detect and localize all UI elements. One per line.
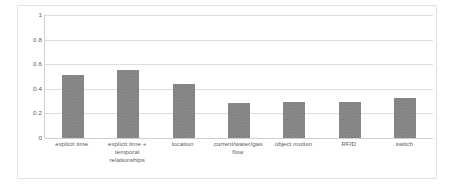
x-axis-category-label: object motion [266, 140, 321, 148]
y-axis-tick-label: 0.2 [33, 110, 42, 116]
x-axis-category-label: RFID [321, 140, 376, 148]
y-axis: 00.20.40.60.81 [22, 10, 42, 138]
bar-slot [378, 15, 433, 138]
x-axis-category-label: explicit time [44, 140, 99, 148]
y-axis-tick-label: 0.4 [33, 86, 42, 92]
x-axis-category-label: current/water/gas flow [210, 140, 265, 156]
bar[interactable] [62, 75, 84, 138]
plot-area [44, 15, 433, 138]
bar[interactable] [228, 103, 250, 138]
bar-slot [100, 15, 155, 138]
bar[interactable] [173, 84, 195, 138]
bar[interactable] [339, 102, 361, 138]
x-axis-category-label: explicit time + temporal relationships [99, 140, 154, 165]
y-axis-tick-label: 1 [38, 12, 42, 18]
bar-slot [267, 15, 322, 138]
y-axis-tick-label: 0 [38, 135, 42, 141]
axis-baseline [45, 138, 433, 139]
bar-slot [45, 15, 100, 138]
bar[interactable] [117, 70, 139, 138]
bar-slot [156, 15, 211, 138]
bar-series [45, 15, 433, 138]
x-axis-category-label: switch [377, 140, 432, 148]
x-axis-category-label: location [155, 140, 210, 148]
x-axis: explicit timeexplicit time + temporal re… [44, 140, 432, 165]
plot-wrapper: 00.20.40.60.81 explicit timeexplicit tim… [18, 6, 436, 178]
bar[interactable] [394, 98, 416, 138]
chart-frame: 00.20.40.60.81 explicit timeexplicit tim… [17, 5, 437, 179]
bar[interactable] [283, 102, 305, 138]
bar-slot [322, 15, 377, 138]
bar-slot [211, 15, 266, 138]
y-axis-tick-label: 0.8 [33, 36, 42, 42]
y-axis-tick-label: 0.6 [33, 61, 42, 67]
